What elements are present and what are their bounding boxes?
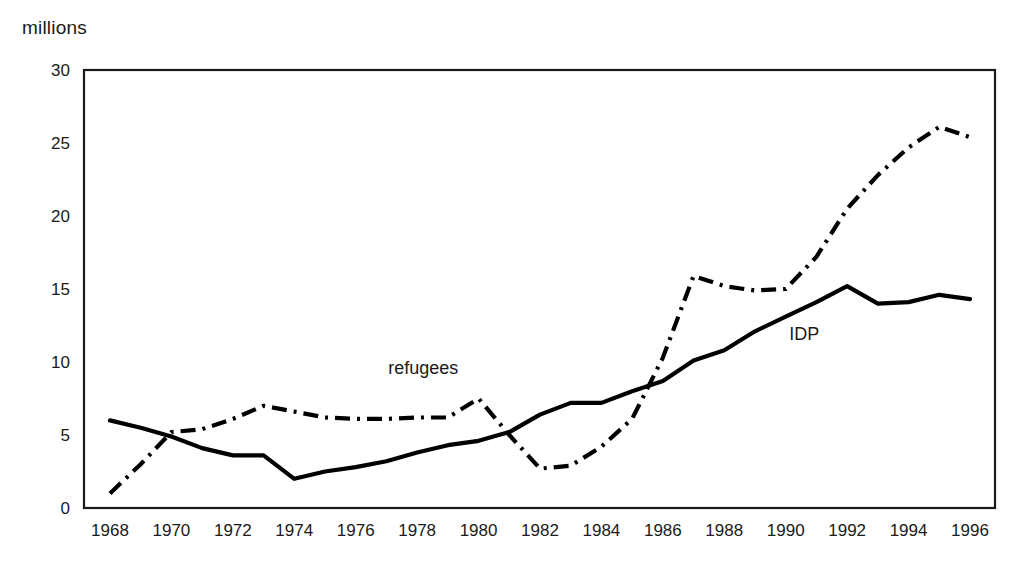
chart-figure: millions 051015202530 196819701972197419… xyxy=(0,0,1030,569)
x-tick-1986: 1986 xyxy=(644,521,682,540)
series-label-refugees: refugees xyxy=(388,358,458,378)
series-line-idp xyxy=(110,286,970,479)
y-tick-5: 5 xyxy=(61,426,70,445)
plot-frame xyxy=(84,70,995,508)
x-tick-1982: 1982 xyxy=(521,521,559,540)
x-tick-1976: 1976 xyxy=(337,521,375,540)
x-tick-1984: 1984 xyxy=(583,521,621,540)
x-tick-1978: 1978 xyxy=(398,521,436,540)
y-tick-20: 20 xyxy=(51,207,70,226)
x-tick-1968: 1968 xyxy=(91,521,129,540)
x-tick-1970: 1970 xyxy=(153,521,191,540)
series-line-refugees xyxy=(110,127,970,494)
y-tick-25: 25 xyxy=(51,134,70,153)
x-tick-1988: 1988 xyxy=(705,521,743,540)
plot-area: 051015202530 196819701972197419761978198… xyxy=(0,0,1030,569)
y-tick-15: 15 xyxy=(51,280,70,299)
x-tick-1996: 1996 xyxy=(951,521,989,540)
x-tick-1992: 1992 xyxy=(828,521,866,540)
x-tick-1990: 1990 xyxy=(767,521,805,540)
y-tick-0: 0 xyxy=(61,499,70,518)
x-tick-1972: 1972 xyxy=(214,521,252,540)
x-tick-1974: 1974 xyxy=(275,521,313,540)
x-tick-1980: 1980 xyxy=(460,521,498,540)
series-label-idp: IDP xyxy=(789,324,819,344)
y-tick-labels: 051015202530 xyxy=(51,61,70,518)
y-tick-30: 30 xyxy=(51,61,70,80)
x-tick-1994: 1994 xyxy=(890,521,928,540)
y-tick-10: 10 xyxy=(51,353,70,372)
chart-svg: 051015202530 196819701972197419761978198… xyxy=(0,0,1030,569)
x-tick-labels: 1968197019721974197619781980198219841986… xyxy=(91,521,989,540)
